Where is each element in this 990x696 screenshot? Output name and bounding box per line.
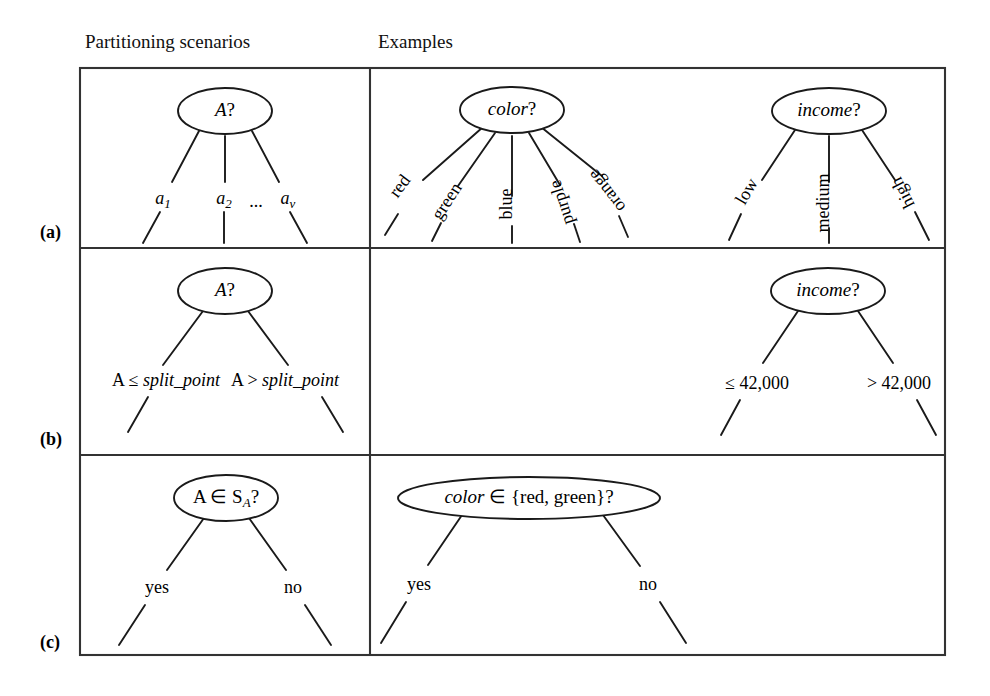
edge-c-color-yes <box>428 515 462 565</box>
edge-a1 <box>172 131 199 182</box>
tree-b-income: income? ≤ 42,000 > 42,000 <box>721 268 936 435</box>
branch-label-c-color-no: no <box>639 574 657 594</box>
branch-label-red: red <box>385 171 415 201</box>
branch-label-ellipsis: ... <box>249 191 263 211</box>
branch-label-medium: medium <box>813 174 833 233</box>
edge-income-high <box>862 130 895 180</box>
edge-b-right <box>248 311 288 365</box>
stub-c-color-yes <box>381 602 406 643</box>
edge-color-green <box>458 133 495 186</box>
edge-av <box>252 131 279 182</box>
stub-c-yes <box>119 605 145 645</box>
edge-income-low <box>762 130 795 180</box>
figure-root: Partitioning scenarios Examples (a) (b) … <box>0 0 990 696</box>
stub-c-color-no <box>660 602 686 643</box>
stub-b-income-le <box>721 400 740 435</box>
stub-color-green <box>432 223 441 241</box>
branch-label-b-le: A ≤ split_point <box>112 370 221 390</box>
edge-b-income-gt <box>858 311 893 363</box>
node-income-a-label: income? <box>797 99 860 120</box>
stub-income-high <box>915 212 929 240</box>
node-b-scenario-label: A? <box>213 279 235 300</box>
branch-label-c-no: no <box>284 577 302 597</box>
tree-a-scenario: A? a1 a2 ... av <box>143 88 307 243</box>
stub-b-left <box>128 397 148 432</box>
branch-label-purple: purple <box>545 178 578 228</box>
node-a-scenario-label: A? <box>213 99 235 120</box>
node-c-color-label: color ∈ {red, green}? <box>444 486 613 507</box>
tree-c-color: color ∈ {red, green}? yes no <box>381 477 686 643</box>
branch-label-orange: orange <box>584 166 630 217</box>
branch-label-c-color-yes: yes <box>407 574 431 594</box>
edge-b-left <box>163 311 203 365</box>
decision-tree-figure: Partitioning scenarios Examples (a) (b) … <box>0 0 990 696</box>
branch-label-a1: a1 <box>155 188 171 211</box>
branch-label-income-gt: > 42,000 <box>867 373 931 393</box>
stub-color-orange <box>619 216 628 237</box>
stub-b-right <box>322 397 343 432</box>
edge-c-yes <box>167 518 204 570</box>
header-partitioning-scenarios: Partitioning scenarios <box>85 31 250 52</box>
row-label-b: (b) <box>40 429 62 450</box>
branch-label-green: green <box>427 179 466 223</box>
branch-label-high: high <box>886 174 918 212</box>
node-income-b-label: income? <box>796 279 859 300</box>
stub-a1 <box>143 212 160 243</box>
node-color-label: color? <box>488 98 537 119</box>
branch-label-blue: blue <box>496 188 516 219</box>
stub-color-red <box>385 214 398 235</box>
row-label-c: (c) <box>40 632 60 653</box>
tree-b-scenario: A? A ≤ split_point A > split_point <box>112 268 343 432</box>
edge-c-no <box>249 518 286 570</box>
edge-b-income-le <box>763 311 798 363</box>
branch-label-c-yes: yes <box>145 577 169 597</box>
row-label-a: (a) <box>40 222 61 243</box>
branch-label-av: av <box>281 188 296 211</box>
tree-c-scenario: A ∈ SA? yes no <box>119 475 331 645</box>
branch-label-a2: a2 <box>216 188 232 211</box>
tree-a-income: income? low medium high <box>729 88 929 243</box>
stub-color-purple <box>574 224 580 242</box>
tree-a-color: color? red green blue purple orange <box>385 87 630 243</box>
branch-label-b-gt: A > split_point <box>231 370 340 390</box>
edge-color-red <box>423 127 483 180</box>
stub-income-low <box>729 214 741 240</box>
stub-av <box>290 212 307 243</box>
branch-label-income-le: ≤ 42,000 <box>725 373 789 393</box>
stub-c-no <box>305 605 331 645</box>
stub-b-income-gt <box>917 400 936 435</box>
header-examples: Examples <box>378 31 453 52</box>
branch-label-low: low <box>731 174 762 207</box>
edge-c-color-no <box>603 515 640 566</box>
edge-color-purple <box>529 133 560 185</box>
